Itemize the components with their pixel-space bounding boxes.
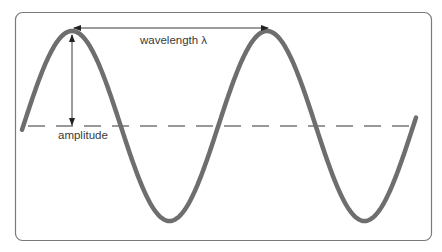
amplitude-label: amplitude [58,129,108,141]
wavelength-label: wavelength λ [139,34,207,46]
wave-diagram: wavelength λ amplitude [0,0,442,252]
